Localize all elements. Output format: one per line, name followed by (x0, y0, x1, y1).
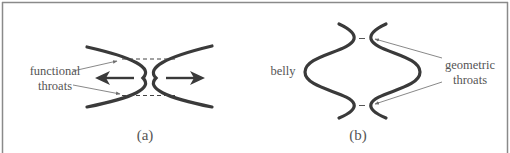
diagram-figure: functional throats (a) belly geometric t… (0, 0, 510, 153)
panel-b: belly geometric throats (b) (271, 24, 496, 144)
right-wall-curve (371, 24, 420, 118)
label-throats-a: throats (38, 79, 72, 93)
diagram-canvas: functional throats (a) belly geometric t… (0, 0, 510, 153)
caption-a: (a) (137, 127, 154, 144)
left-wall-curve (305, 24, 354, 118)
caption-b: (b) (349, 127, 367, 144)
arrow-left-icon (95, 71, 134, 85)
pointer-line-bottom (73, 85, 120, 94)
right-throat-curve (153, 46, 212, 107)
label-functional: functional (30, 64, 81, 78)
label-belly: belly (271, 64, 297, 78)
label-geometric: geometric (445, 58, 495, 72)
arrow-right-icon (166, 71, 205, 85)
label-throats-b: throats (453, 73, 487, 87)
panel-a: functional throats (a) (30, 46, 212, 144)
